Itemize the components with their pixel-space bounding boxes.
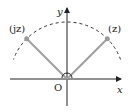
label-z: (z) bbox=[108, 23, 121, 34]
label-jz: (jz) bbox=[9, 23, 25, 34]
diagram-canvas: y x O (jz) (z) bbox=[0, 0, 131, 112]
point-jz bbox=[24, 36, 29, 41]
vector-jz bbox=[27, 39, 67, 79]
point-z bbox=[105, 36, 110, 41]
origin-label: O bbox=[54, 82, 62, 93]
x-axis-label: x bbox=[117, 84, 123, 95]
y-axis-label: y bbox=[56, 6, 63, 17]
vector-z bbox=[67, 39, 107, 79]
